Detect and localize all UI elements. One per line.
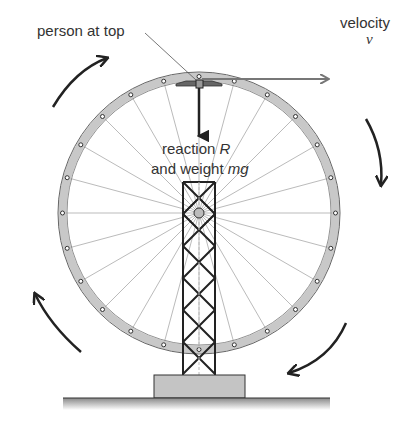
ferris-wheel-diagram (0, 0, 411, 426)
weight-text: and weight (151, 160, 228, 177)
velocity-label: velocity (340, 14, 390, 31)
person-pointer-line (145, 33, 196, 80)
rotation-arrow-top-left (53, 58, 107, 107)
weight-label: and weight mg (151, 160, 249, 177)
reaction-symbol: R (220, 140, 231, 157)
person-at-top-label: person at top (37, 22, 125, 39)
rotation-arrow-bottom-right (289, 323, 346, 373)
rotation-arrow-right (366, 119, 381, 185)
hub (194, 208, 204, 218)
reaction-text: reaction (162, 140, 220, 157)
reaction-label: reaction R (162, 140, 230, 157)
ground (63, 398, 330, 410)
rotation-arrow-left (35, 294, 81, 352)
weight-symbol: mg (228, 160, 249, 177)
velocity-symbol: v (366, 31, 373, 48)
tower-base (154, 375, 245, 398)
